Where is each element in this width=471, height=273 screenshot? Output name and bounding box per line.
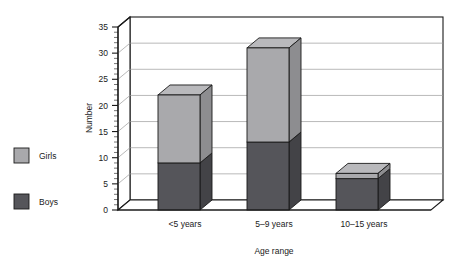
bar-boys-front-face	[247, 142, 289, 210]
y-tick-label-25: 25	[99, 74, 109, 84]
legend-label-boys: Boys	[39, 197, 58, 207]
bar-segment-girls-under-5	[158, 85, 212, 163]
y-tick-label-35: 35	[99, 22, 109, 32]
y-tick-label-0: 0	[103, 205, 108, 215]
y-tick-label-10: 10	[99, 153, 109, 163]
bar-girls-front-face	[247, 48, 289, 142]
x-tick-label-5-9: 5–9 years	[255, 219, 292, 229]
bar-group-under-5	[158, 85, 212, 210]
bar-girls-front-face	[158, 95, 200, 163]
chart-container: 0 5 10 15 20 25 30 35 Number	[0, 0, 471, 273]
y-axis-title: Number	[84, 103, 94, 133]
bar-segment-boys-5-9	[247, 132, 301, 210]
y-tick-label-5: 5	[103, 179, 108, 189]
bar-boys-side-face	[289, 132, 301, 210]
bar-segment-girls-5-9	[247, 38, 301, 142]
plot-left-wall	[118, 17, 130, 210]
bar-group-5-9	[247, 38, 301, 210]
bar-girls-front-face	[336, 173, 378, 178]
x-tick-label-under-5: <5 years	[169, 219, 202, 229]
bar-girls-side-face	[200, 85, 212, 163]
legend-swatch-girls	[14, 148, 29, 163]
x-axis-title: Age range	[254, 246, 293, 256]
y-tick-label-15: 15	[99, 127, 109, 137]
bar-boys-front-face	[336, 179, 378, 210]
bar-group-10-15	[336, 163, 390, 210]
y-tick-label-30: 30	[99, 48, 109, 58]
bar-chart-svg: 0 5 10 15 20 25 30 35 Number	[0, 0, 471, 273]
bar-boys-front-face	[158, 163, 200, 210]
bar-girls-side-face	[289, 38, 301, 142]
legend-label-girls: Girls	[39, 151, 56, 161]
y-tick-label-20: 20	[99, 101, 109, 111]
legend-swatch-boys	[14, 194, 29, 209]
x-tick-label-10-15: 10–15 years	[341, 219, 388, 229]
